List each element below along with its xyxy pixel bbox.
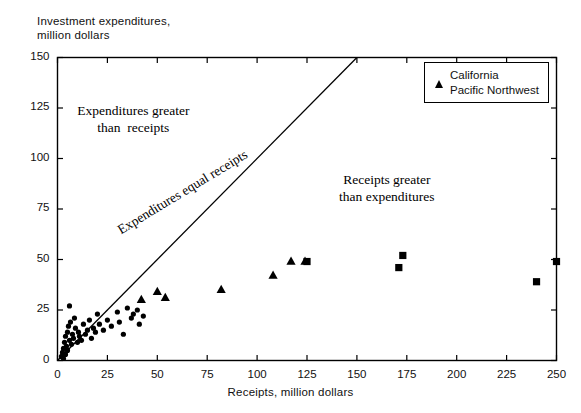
data-point <box>65 330 70 335</box>
data-point <box>161 293 170 301</box>
legend-label: Pacific Northwest <box>450 84 539 96</box>
data-point <box>69 342 74 347</box>
x-tick-label: 150 <box>337 368 377 380</box>
data-point <box>65 348 70 353</box>
x-tick-label: 100 <box>237 368 277 380</box>
data-point <box>399 252 406 259</box>
y-tick-label: 25 <box>16 302 50 314</box>
x-axis-title: Receipts, million dollars <box>0 386 581 398</box>
data-point <box>141 313 146 318</box>
data-point <box>395 264 402 271</box>
x-tick-label: 75 <box>187 368 227 380</box>
data-point <box>131 311 136 316</box>
data-point <box>71 336 76 341</box>
data-point <box>68 320 73 325</box>
data-point <box>121 332 126 337</box>
data-point <box>89 336 94 341</box>
data-point <box>93 330 98 335</box>
x-tick-label: 25 <box>87 368 127 380</box>
data-point <box>553 258 560 265</box>
data-point <box>303 258 310 265</box>
x-tick-label: 50 <box>137 368 177 380</box>
x-tick-label: 225 <box>487 368 527 380</box>
data-point <box>115 309 120 314</box>
data-point <box>135 307 140 312</box>
series-california <box>137 256 310 303</box>
data-point <box>81 322 86 327</box>
data-point <box>72 315 77 320</box>
legend-item-california: California <box>432 67 539 82</box>
legend-label: California <box>450 69 499 81</box>
scatter-plot-figure: Investment expenditures, million dollars… <box>0 0 581 413</box>
x-tick-label: 175 <box>387 368 427 380</box>
y-tick-label: 125 <box>16 100 50 112</box>
series-pacific-northwest <box>303 252 560 285</box>
data-point <box>109 324 114 329</box>
x-tick-label: 125 <box>287 368 327 380</box>
legend-item-pacific-northwest: Pacific Northwest <box>432 82 539 97</box>
y-tick-label: 75 <box>16 201 50 213</box>
data-point <box>97 322 102 327</box>
data-point <box>79 338 84 343</box>
data-point <box>67 303 72 308</box>
data-point <box>137 295 146 303</box>
data-point <box>268 271 277 279</box>
y-tick-label: 0 <box>16 353 50 365</box>
data-point <box>101 328 106 333</box>
data-point <box>286 256 295 264</box>
data-point <box>533 278 540 285</box>
data-point <box>87 318 92 323</box>
data-point <box>95 311 100 316</box>
x-tick-label: 250 <box>537 368 577 380</box>
data-point <box>217 285 226 293</box>
data-point <box>137 322 142 327</box>
lower-right-region-label: Receipts greater than expenditures <box>302 171 472 205</box>
chart-legend: California Pacific Northwest <box>424 62 549 103</box>
data-point <box>153 287 162 295</box>
triangle-marker-icon <box>432 69 446 80</box>
x-tick-label: 200 <box>437 368 477 380</box>
y-tick-label: 150 <box>16 50 50 62</box>
upper-left-region-label: Expenditures greater than receipts <box>48 102 218 136</box>
data-point <box>117 320 122 325</box>
data-point <box>85 328 90 333</box>
data-point <box>125 305 130 310</box>
x-tick-label: 0 <box>38 368 78 380</box>
y-tick-label: 100 <box>16 151 50 163</box>
data-point <box>105 318 110 323</box>
y-tick-label: 50 <box>16 252 50 264</box>
series-unlabeled-cluster <box>59 303 146 361</box>
